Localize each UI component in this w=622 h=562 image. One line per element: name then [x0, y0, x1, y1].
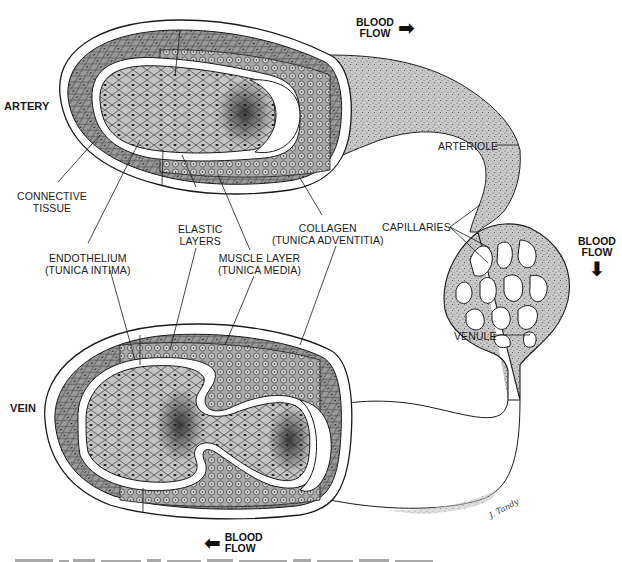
- capillary-bed: [444, 224, 569, 400]
- label-capillaries: CAPILLARIES: [382, 221, 451, 233]
- artery-cross-section: [60, 20, 521, 232]
- arrow-left-icon: ⬅: [204, 533, 221, 553]
- label-connective-tissue: CONNECTIVE TISSUE: [17, 190, 87, 214]
- blood-flow-indicator-bottom: ⬅ BLOOD FLOW: [204, 532, 263, 554]
- label-venule: VENULE: [454, 330, 497, 342]
- blood-vessel-illustration: [0, 0, 622, 562]
- label-collagen: COLLAGEN (TUNICA ADVENTITIA): [272, 222, 384, 246]
- caption-remnant: [15, 554, 445, 562]
- label-arteriole: ARTERIOLE: [438, 140, 498, 152]
- label-elastic-layers: ELASTIC LAYERS: [178, 223, 222, 247]
- label-muscle-layer: MUSCLE LAYER (TUNICA MEDIA): [218, 252, 301, 276]
- vein-cross-section: [45, 324, 520, 519]
- blood-flow-indicator-right: BLOOD FLOW ⬇: [578, 236, 616, 280]
- arrow-right-icon: ➡: [398, 18, 415, 38]
- cropped-caption-strip: [15, 553, 445, 562]
- label-artery: ARTERY: [4, 100, 49, 112]
- blood-flow-indicator-top: BLOOD FLOW ➡: [356, 17, 415, 39]
- label-vein: VEIN: [10, 402, 36, 414]
- label-endothelium: ENDOTHELIUM (TUNICA INTIMA): [45, 252, 131, 276]
- arrow-down-icon: ⬇: [578, 258, 616, 280]
